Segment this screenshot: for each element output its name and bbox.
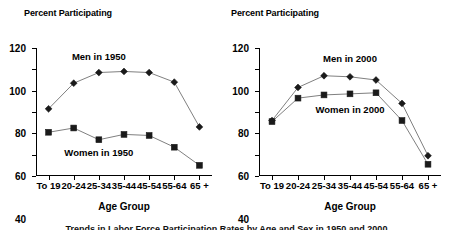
x-axis-tick-label: 35-44 <box>338 180 362 191</box>
y-axis-tick: 0 <box>32 176 36 177</box>
x-axis-tick-label: To 19 <box>37 180 61 191</box>
y-axis-tick-label: 120 <box>232 43 249 54</box>
y-axis-tick: 40 <box>32 133 36 134</box>
data-point-marker <box>373 90 379 96</box>
y-axis-tick: 60 <box>32 112 36 113</box>
y-axis-tick: 80 <box>32 91 36 92</box>
x-axis-tick-label: 20-24 <box>286 180 310 191</box>
series-label: Men in 1950 <box>72 51 126 62</box>
y-axis-tick: 40 <box>255 133 259 134</box>
series-label: Women in 2000 <box>316 104 385 115</box>
x-axis-tick-label: 65 + <box>190 180 209 191</box>
x-axis-tick-label: 20-24 <box>62 180 86 191</box>
panel-title: Percent Participating <box>231 8 319 18</box>
y-axis-tick-label: 60 <box>15 171 26 182</box>
series-label: Women in 1950 <box>64 147 133 158</box>
x-axis-title: Age Group <box>324 201 376 212</box>
x-axis-title: Age Group <box>98 201 150 212</box>
x-axis-tick-label: 25-34 <box>87 180 111 191</box>
data-point-marker <box>95 69 102 76</box>
data-point-marker <box>425 161 431 167</box>
y-axis-tick: 100 <box>32 69 36 70</box>
data-point-marker <box>196 124 203 131</box>
figure-two-panel-line-charts: Percent Participating Age Group 02040608… <box>0 0 453 230</box>
plot-area-1950: Age Group 020406080100120To 1920-2425-34… <box>36 48 212 176</box>
series-line <box>49 71 200 126</box>
x-axis-tick-label: 45-54 <box>137 180 161 191</box>
x-axis-tick-label: 55-64 <box>390 180 414 191</box>
series-label: Men in 2000 <box>323 53 377 64</box>
data-point-marker <box>269 119 275 125</box>
plot-area-2000: Age Group 020406080100120To 1920-2425-34… <box>259 48 441 176</box>
x-axis-tick-label: 25-34 <box>312 180 336 191</box>
data-point-marker <box>71 125 77 131</box>
data-point-marker <box>171 79 178 86</box>
y-axis-tick: 60 <box>255 112 259 113</box>
y-axis-tick-label: 40 <box>15 213 26 224</box>
y-axis-tick-label: 80 <box>238 128 249 139</box>
chart-panel-2000: Percent Participating Age Group 02040608… <box>227 0 453 230</box>
panel-title: Percent Participating <box>24 8 112 18</box>
y-axis-tick: 120 <box>32 48 36 49</box>
data-point-marker <box>399 118 405 124</box>
data-point-marker <box>321 72 328 79</box>
y-axis-tick: 100 <box>255 69 259 70</box>
data-point-marker <box>321 92 327 98</box>
data-point-marker <box>146 69 153 76</box>
x-axis-tick-label: 45-54 <box>364 180 388 191</box>
y-axis-tick: 80 <box>255 91 259 92</box>
y-axis-tick-label: 40 <box>238 213 249 224</box>
x-axis-tick-label: To 19 <box>260 180 284 191</box>
data-point-marker <box>295 95 301 101</box>
y-axis-tick-label: 100 <box>232 85 249 96</box>
y-axis-tick-label: 120 <box>9 43 26 54</box>
y-axis-tick-label: 100 <box>9 85 26 96</box>
y-axis-tick: 20 <box>32 155 36 156</box>
data-point-marker <box>425 152 432 159</box>
y-axis-tick: 0 <box>255 176 259 177</box>
figure-caption: Trends in Labor Force Participation Rate… <box>0 224 453 230</box>
data-point-marker <box>171 144 177 150</box>
data-point-marker <box>121 132 127 138</box>
y-axis-tick: 120 <box>255 48 259 49</box>
chart-panel-1950: Percent Participating Age Group 02040608… <box>0 0 226 230</box>
y-axis-tick: 20 <box>255 155 259 156</box>
data-point-marker <box>46 129 52 135</box>
data-point-marker <box>347 73 354 80</box>
y-axis-tick-label: 80 <box>15 128 26 139</box>
data-point-marker <box>197 162 203 168</box>
data-point-marker <box>96 137 102 143</box>
y-axis-tick-label: 60 <box>238 171 249 182</box>
x-axis-tick-label: 55-64 <box>162 180 186 191</box>
data-point-marker <box>121 68 128 75</box>
data-point-marker <box>146 133 152 139</box>
x-axis-tick-label: 35-44 <box>112 180 136 191</box>
data-point-marker <box>347 91 353 97</box>
x-axis-tick-label: 65 + <box>419 180 438 191</box>
